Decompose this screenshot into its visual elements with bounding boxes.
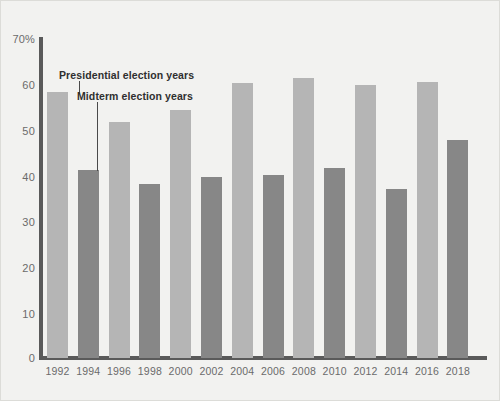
bar-rect-1994 bbox=[78, 170, 99, 358]
bar-rect-2006 bbox=[263, 175, 284, 358]
y-tick-label: 0 bbox=[1, 352, 35, 364]
y-tick-label: 50 bbox=[1, 125, 35, 137]
bar-rect-2004 bbox=[232, 83, 253, 358]
bar-rect-2014 bbox=[386, 189, 407, 358]
bar-rect-2010 bbox=[324, 168, 345, 358]
bar-rect-2000 bbox=[170, 110, 191, 358]
bar-2006 bbox=[263, 37, 284, 358]
bar-rect-2016 bbox=[417, 82, 438, 358]
y-tick-label: 70% bbox=[1, 33, 35, 45]
bar-rect-2008 bbox=[293, 78, 314, 358]
y-tick-label: 60 bbox=[1, 79, 35, 91]
bar-2008 bbox=[293, 37, 314, 358]
y-tick-label: 10 bbox=[1, 308, 35, 320]
bar-2010 bbox=[324, 37, 345, 358]
annotation-midterm-label: Midterm election years bbox=[77, 90, 193, 102]
bar-2018 bbox=[447, 37, 468, 358]
bar-1992 bbox=[47, 37, 68, 358]
bar-1996 bbox=[109, 37, 130, 358]
bar-rect-2002 bbox=[201, 177, 222, 358]
bar-2002 bbox=[201, 37, 222, 358]
bar-rect-1998 bbox=[139, 184, 160, 358]
bar-rect-2018 bbox=[447, 140, 468, 358]
bar-rect-2012 bbox=[355, 85, 376, 358]
chart-figure: 70% 60 50 40 30 20 10 0 1992199419961998… bbox=[0, 0, 500, 401]
y-tick-label: 30 bbox=[1, 216, 35, 228]
bar-1998 bbox=[139, 37, 160, 358]
plot-area bbox=[39, 37, 487, 358]
bar-2004 bbox=[232, 37, 253, 358]
bar-rect-1996 bbox=[109, 122, 130, 358]
bar-1994 bbox=[78, 37, 99, 358]
y-tick-label: 20 bbox=[1, 262, 35, 274]
y-tick-label: 40 bbox=[1, 171, 35, 183]
bar-2014 bbox=[386, 37, 407, 358]
x-tick-label-2018: 2018 bbox=[436, 365, 480, 377]
bar-rect-1992 bbox=[47, 92, 68, 358]
bar-2000 bbox=[170, 37, 191, 358]
y-axis-tick-labels: 70% 60 50 40 30 20 10 0 bbox=[1, 1, 35, 401]
bar-2016 bbox=[417, 37, 438, 358]
bar-2012 bbox=[355, 37, 376, 358]
annotation-presidential-label: Presidential election years bbox=[59, 69, 194, 81]
annotation-midterm-leader-line bbox=[97, 102, 98, 171]
